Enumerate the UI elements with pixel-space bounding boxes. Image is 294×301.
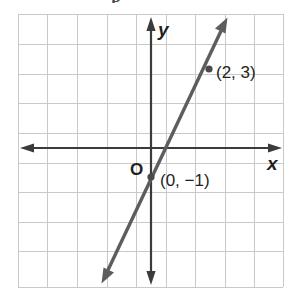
coordinate-plane-figure: p [0, 0, 294, 301]
x-axis-label: x [266, 153, 279, 174]
y-axis-label: y [157, 19, 170, 40]
origin-label: O [130, 160, 143, 179]
data-point-2-3 [205, 65, 212, 72]
point-label-0-neg1: (0, −1) [160, 171, 210, 190]
graph-svg: (2, 3) (0, −1) O y x [0, 0, 294, 301]
point-label-2-3: (2, 3) [216, 63, 256, 82]
cropped-title-fragment: p [96, 0, 136, 3]
data-point-0-neg1 [147, 173, 154, 180]
